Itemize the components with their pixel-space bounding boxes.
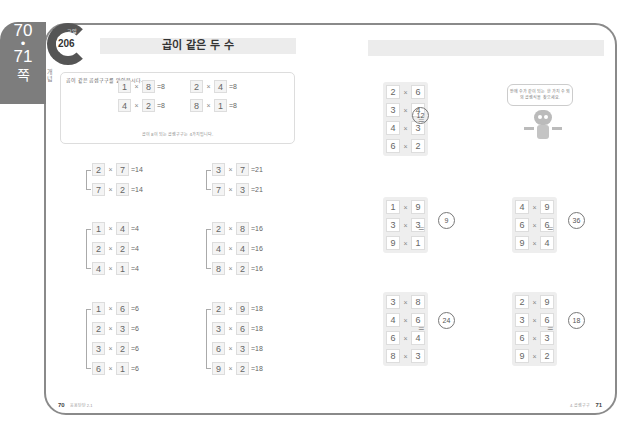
factor-a-box[interactable]: 6	[212, 342, 225, 355]
answer-circle[interactable]: 24	[438, 312, 455, 329]
factor-b-box[interactable]: 2	[236, 362, 249, 375]
times-sign: ×	[131, 102, 142, 109]
group-bracket	[86, 170, 91, 190]
factor-b-box[interactable]: 4	[540, 236, 554, 250]
factor-b-box[interactable]: 9	[540, 200, 554, 214]
factor-a-box[interactable]: 2	[386, 85, 400, 99]
factor-b-box[interactable]: 3	[411, 349, 425, 363]
factor-b-box[interactable]: 6	[411, 85, 425, 99]
equation: 7×3=21	[212, 183, 263, 196]
factor-b-box[interactable]: 2	[116, 342, 129, 355]
factor-a-box[interactable]: 4	[386, 121, 400, 135]
group-bracket	[86, 309, 91, 369]
factor-a-box[interactable]: 4	[212, 242, 225, 255]
factor-b-box[interactable]: 1	[214, 99, 227, 112]
factor-a-box[interactable]: 6	[515, 331, 529, 345]
product-result: =21	[251, 166, 263, 173]
factor-a-box[interactable]: 3	[212, 322, 225, 335]
factor-b-box[interactable]: 1	[116, 262, 129, 275]
factor-a-box[interactable]: 3	[92, 342, 105, 355]
factor-b-box[interactable]: 2	[236, 262, 249, 275]
factor-a-box[interactable]: 7	[212, 183, 225, 196]
factor-b-box[interactable]: 7	[116, 163, 129, 176]
factor-b-box[interactable]: 8	[236, 222, 249, 235]
factor-a-box[interactable]: 1	[118, 80, 131, 93]
factor-a-box[interactable]: 1	[92, 222, 105, 235]
factor-a-box[interactable]: 1	[386, 200, 400, 214]
factor-b-box[interactable]: 2	[142, 99, 155, 112]
answer-circle[interactable]: 36	[568, 212, 585, 229]
factor-b-box[interactable]: 4	[236, 242, 249, 255]
factor-a-box[interactable]: 3	[515, 313, 529, 327]
factor-b-box[interactable]: 3	[540, 331, 554, 345]
factor-b-box[interactable]: 3	[116, 322, 129, 335]
factor-a-box[interactable]: 3	[386, 218, 400, 232]
factor-a-box[interactable]: 6	[92, 362, 105, 375]
factor-b-box[interactable]: 6	[116, 302, 129, 315]
equation: 3×2=6	[92, 342, 139, 355]
factor-b-box[interactable]: 1	[116, 362, 129, 375]
factor-a-box[interactable]: 2	[515, 295, 529, 309]
factor-b-box[interactable]: 4	[411, 331, 425, 345]
factor-a-box[interactable]: 2	[212, 302, 225, 315]
factor-a-box[interactable]: 7	[92, 183, 105, 196]
equals-sign: =	[418, 324, 425, 333]
equation: 9×4	[515, 236, 554, 250]
factor-a-box[interactable]: 3	[386, 295, 400, 309]
factor-a-box[interactable]: 9	[212, 362, 225, 375]
factor-b-box[interactable]: 2	[116, 242, 129, 255]
factor-b-box[interactable]: 4	[214, 80, 227, 93]
equation: 4×4=16	[212, 242, 263, 255]
factor-a-box[interactable]: 2	[92, 242, 105, 255]
factor-a-box[interactable]: 8	[386, 349, 400, 363]
factor-b-box[interactable]: 1	[411, 236, 425, 250]
factor-b-box[interactable]: 7	[236, 163, 249, 176]
factor-a-box[interactable]: 8	[212, 262, 225, 275]
factor-a-box[interactable]: 2	[92, 322, 105, 335]
answer-circle[interactable]: 18	[568, 312, 585, 329]
factor-b-box[interactable]: 8	[142, 80, 155, 93]
factor-a-box[interactable]: 2	[190, 80, 203, 93]
product-result: =18	[251, 365, 263, 372]
factor-a-box[interactable]: 9	[515, 349, 529, 363]
robot-mascot-icon	[530, 110, 556, 144]
factor-a-box[interactable]: 4	[515, 200, 529, 214]
factor-b-box[interactable]: 4	[116, 222, 129, 235]
equals-sign: =	[547, 224, 554, 233]
factor-b-box[interactable]: 3	[236, 342, 249, 355]
factor-a-box[interactable]: 3	[386, 103, 400, 117]
times-sign: ×	[105, 186, 116, 193]
factor-b-box[interactable]: 9	[411, 200, 425, 214]
answer-circle[interactable]: 9	[438, 212, 455, 229]
factor-a-box[interactable]: 4	[386, 313, 400, 327]
factor-b-box[interactable]: 9	[236, 302, 249, 315]
factor-a-box[interactable]: 6	[515, 218, 529, 232]
equals-sign: =	[418, 224, 425, 233]
factor-a-box[interactable]: 1	[92, 302, 105, 315]
factor-a-box[interactable]: 9	[386, 236, 400, 250]
factor-a-box[interactable]: 3	[212, 163, 225, 176]
factor-b-box[interactable]: 3	[236, 183, 249, 196]
answer-circle[interactable]: 12	[412, 107, 429, 124]
factor-a-box[interactable]: 9	[515, 236, 529, 250]
factor-a-box[interactable]: 4	[92, 262, 105, 275]
times-sign: ×	[225, 245, 236, 252]
product-result: =18	[251, 345, 263, 352]
factor-b-box[interactable]: 8	[411, 295, 425, 309]
factor-a-box[interactable]: 4	[118, 99, 131, 112]
factor-a-box[interactable]: 6	[386, 331, 400, 345]
factor-b-box[interactable]: 6	[236, 322, 249, 335]
factor-a-box[interactable]: 6	[386, 139, 400, 153]
factor-b-box[interactable]: 9	[540, 295, 554, 309]
equation: 2×3=6	[92, 322, 139, 335]
factor-b-box[interactable]: 2	[540, 349, 554, 363]
factor-a-box[interactable]: 8	[190, 99, 203, 112]
times-sign: ×	[529, 204, 540, 211]
factor-a-box[interactable]: 2	[212, 222, 225, 235]
factor-b-box[interactable]: 2	[411, 139, 425, 153]
factor-a-box[interactable]: 2	[92, 163, 105, 176]
equation: 4×2=8	[118, 99, 165, 112]
equation: 6×3	[515, 331, 554, 345]
factor-b-box[interactable]: 2	[116, 183, 129, 196]
page-title: 곱이 같은 두 수	[100, 38, 296, 54]
